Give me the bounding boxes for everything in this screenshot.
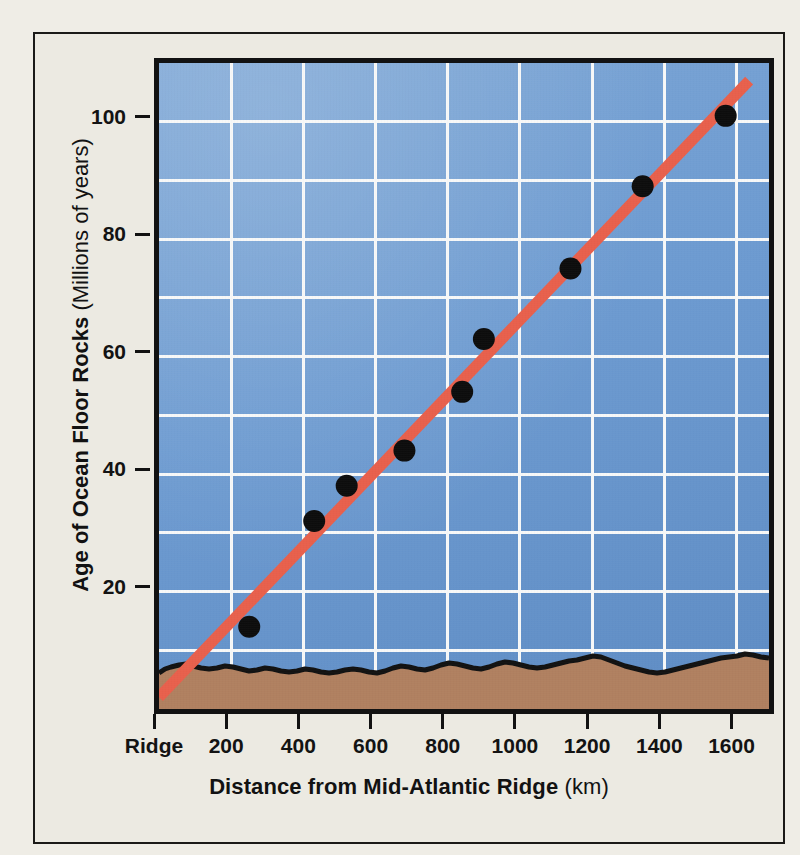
x-axis-tick-label: 600 bbox=[353, 734, 388, 758]
data-point bbox=[238, 616, 260, 638]
x-axis-tick-label: Ridge bbox=[125, 734, 183, 758]
x-axis-tick-label: 1200 bbox=[564, 734, 611, 758]
data-point bbox=[451, 381, 473, 403]
x-axis-tick bbox=[586, 714, 589, 729]
x-axis-title: Distance from Mid-Atlantic Ridge (km) bbox=[35, 774, 783, 800]
y-axis-tick bbox=[135, 468, 150, 471]
x-axis-tick bbox=[658, 714, 661, 729]
y-axis-tick bbox=[135, 115, 150, 118]
data-point bbox=[559, 258, 581, 280]
x-axis-tick-label: 1400 bbox=[636, 734, 683, 758]
x-axis-tick bbox=[225, 714, 228, 729]
data-point bbox=[473, 328, 495, 350]
data-point bbox=[336, 475, 358, 497]
x-axis-tick bbox=[369, 714, 372, 729]
chart-figure: Ridge2004006008001000120014001600 204060… bbox=[35, 34, 783, 842]
data-point bbox=[715, 105, 737, 127]
y-axis-title: Age of Ocean Floor Rocks (Millions of ye… bbox=[68, 105, 94, 625]
y-axis-tick bbox=[135, 233, 150, 236]
x-axis-title-text: Distance from Mid-Atlantic Ridge bbox=[209, 774, 558, 799]
data-point bbox=[632, 175, 654, 197]
y-axis-unit: (Millions of years) bbox=[68, 138, 93, 310]
x-axis-tick-label: 1600 bbox=[708, 734, 755, 758]
x-axis-tick bbox=[297, 714, 300, 729]
plot-area bbox=[154, 58, 774, 714]
x-axis-tick bbox=[730, 714, 733, 729]
x-axis-unit: (km) bbox=[564, 774, 608, 799]
data-overlay bbox=[159, 63, 769, 709]
x-axis-tick bbox=[153, 714, 156, 729]
x-axis-tick-label: 1000 bbox=[492, 734, 539, 758]
y-axis-title-text: Age of Ocean Floor Rocks bbox=[68, 317, 93, 592]
y-axis-tick bbox=[135, 350, 150, 353]
x-axis-tick bbox=[513, 714, 516, 729]
data-points-group bbox=[238, 105, 736, 638]
x-axis-tick bbox=[441, 714, 444, 729]
x-axis-tick-label: 400 bbox=[281, 734, 316, 758]
data-point bbox=[393, 440, 415, 462]
x-axis-tick-label: 800 bbox=[425, 734, 460, 758]
plot-inner bbox=[159, 63, 769, 709]
figure-frame: Ridge2004006008001000120014001600 204060… bbox=[33, 32, 785, 844]
y-axis-tick bbox=[135, 585, 150, 588]
data-point bbox=[303, 510, 325, 532]
x-axis-tick-label: 200 bbox=[209, 734, 244, 758]
